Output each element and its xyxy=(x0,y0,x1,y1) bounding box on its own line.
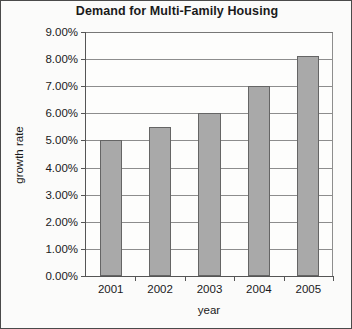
y-axis-tick-label: 2.00% xyxy=(45,216,78,228)
x-axis-tick-label: 2002 xyxy=(147,283,173,295)
x-axis-title: year xyxy=(85,304,333,316)
chart-container: Demand for Multi-Family Housing growth r… xyxy=(0,0,352,329)
y-axis-tick xyxy=(81,168,86,169)
x-axis-tick-label: 2003 xyxy=(197,283,223,295)
x-axis-tick xyxy=(185,276,186,281)
bar xyxy=(198,113,220,276)
gridline xyxy=(86,32,333,33)
bar xyxy=(248,86,270,276)
y-axis-tick xyxy=(81,222,86,223)
y-axis-tick xyxy=(81,140,86,141)
plot-area: 0.00%1.00%2.00%3.00%4.00%5.00%6.00%7.00%… xyxy=(85,32,333,277)
y-axis-tick xyxy=(81,276,86,277)
bar xyxy=(100,140,122,276)
y-axis-tick-label: 6.00% xyxy=(45,107,78,119)
x-axis-tick-label: 2001 xyxy=(98,283,124,295)
x-axis-tick-label: 2004 xyxy=(246,283,272,295)
y-axis-tick-label: 7.00% xyxy=(45,80,78,92)
y-axis-tick-label: 3.00% xyxy=(45,189,78,201)
y-axis-tick xyxy=(81,32,86,33)
x-axis-tick-label: 2005 xyxy=(296,283,322,295)
y-axis-tick-label: 0.00% xyxy=(45,270,78,282)
y-axis-tick-label: 9.00% xyxy=(45,26,78,38)
x-axis-tick xyxy=(135,276,136,281)
y-axis-tick xyxy=(81,249,86,250)
x-axis-tick xyxy=(234,276,235,281)
chart-title: Demand for Multi-Family Housing xyxy=(1,4,352,18)
y-axis-tick xyxy=(81,59,86,60)
y-axis-tick xyxy=(81,195,86,196)
x-axis-tick xyxy=(284,276,285,281)
y-axis-tick-label: 1.00% xyxy=(45,243,78,255)
plot-right-edge xyxy=(332,32,333,276)
x-axis-tick xyxy=(333,276,334,281)
y-axis-tick-label: 4.00% xyxy=(45,162,78,174)
y-axis-tick xyxy=(81,86,86,87)
y-axis-title-label: growth rate xyxy=(13,126,25,184)
gridline xyxy=(86,86,333,87)
gridline xyxy=(86,59,333,60)
y-axis-title: growth rate xyxy=(9,32,29,277)
bar xyxy=(149,127,171,276)
y-axis-tick-label: 8.00% xyxy=(45,53,78,65)
y-axis-tick xyxy=(81,113,86,114)
y-axis-tick-label: 5.00% xyxy=(45,134,78,146)
bar xyxy=(297,56,319,276)
